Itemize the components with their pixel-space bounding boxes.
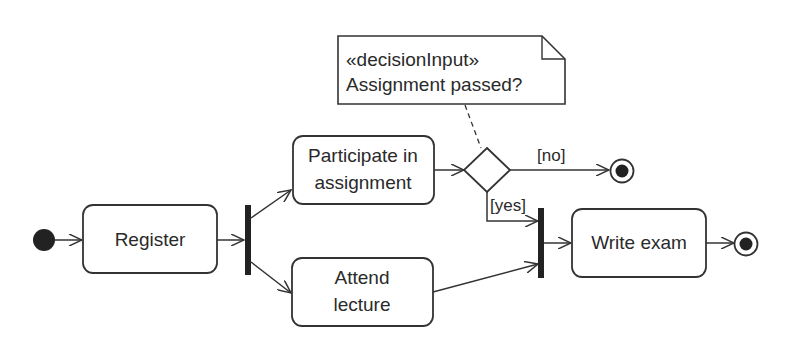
guard-no: [no]	[537, 146, 565, 165]
activity-final-no[interactable]	[611, 160, 634, 183]
action-participate-label-line1: Participate in	[308, 145, 418, 166]
join-bar[interactable]	[538, 208, 544, 278]
action-write-exam[interactable]: Write exam	[572, 209, 706, 277]
note-anchor-dashed	[465, 105, 481, 148]
decision-node[interactable]	[464, 148, 510, 192]
action-attend-label-line2: lecture	[333, 294, 390, 315]
guard-yes: [yes]	[490, 196, 526, 215]
action-write-exam-label: Write exam	[591, 232, 687, 253]
action-participate-in-assignment[interactable]: Participate in assignment	[293, 136, 434, 204]
activity-diagram: Register Participate in assignment Atten…	[0, 0, 790, 348]
activity-final-end[interactable]	[735, 233, 758, 256]
note-text: Assignment passed?	[346, 74, 522, 95]
initial-node[interactable]	[33, 229, 55, 251]
decision-input-note[interactable]: «decisionInput» Assignment passed?	[338, 36, 565, 104]
edge-attend-to-join	[433, 264, 538, 292]
fork-bar[interactable]	[245, 205, 251, 275]
note-stereotype: «decisionInput»	[346, 49, 479, 70]
action-attend-label-line1: Attend	[335, 267, 390, 288]
action-attend-lecture[interactable]: Attend lecture	[292, 258, 433, 326]
action-participate-label-line2: assignment	[314, 172, 412, 193]
action-register[interactable]: Register	[83, 205, 217, 273]
edge-fork-to-attend	[251, 262, 291, 293]
action-register-label: Register	[115, 229, 186, 250]
edge-fork-to-participate	[251, 190, 291, 218]
